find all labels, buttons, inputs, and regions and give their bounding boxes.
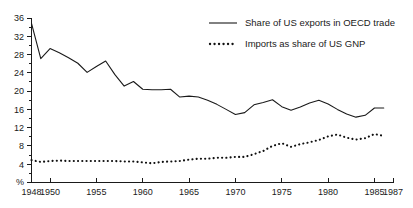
chart-plot: 4812162024283236 19481950195519601965197… (0, 0, 413, 208)
y-axis-unit-label: % (16, 177, 24, 187)
y-tick-label-12: 12 (14, 123, 24, 133)
y-axis: 4812162024283236 (14, 13, 32, 182)
y-tick-label-20: 20 (14, 86, 24, 96)
x-tick-label-1987: 1987 (383, 187, 403, 197)
y-tick-label-32: 32 (14, 32, 24, 42)
x-tick-label-1980: 1980 (318, 187, 338, 197)
x-tick-label-1970: 1970 (225, 187, 245, 197)
x-axis-ticks (32, 178, 394, 183)
x-axis: 1948195019551960196519701975198019851987 (21, 178, 403, 198)
x-axis-tick-labels: 1948195019551960196519701975198019851987 (21, 187, 403, 197)
x-tick-label-1950: 1950 (40, 187, 60, 197)
x-tick-label-1965: 1965 (179, 187, 199, 197)
legend-label-imports-share-gnp: Imports as share of US GNP (245, 38, 365, 49)
x-tick-label-1960: 1960 (133, 187, 153, 197)
x-tick-label-1948: 1948 (21, 187, 41, 197)
series-line-imports-share-gnp (32, 134, 384, 163)
y-axis-tick-labels: 4812162024283236 (14, 13, 24, 169)
y-tick-label-36: 36 (14, 13, 24, 23)
chart-legend: Share of US exports in OECD trade Import… (209, 17, 395, 49)
y-tick-label-28: 28 (14, 50, 24, 60)
x-tick-label-1985: 1985 (364, 187, 384, 197)
y-tick-label-4: 4 (19, 160, 24, 170)
y-tick-label-24: 24 (14, 68, 24, 78)
y-axis-ticks (27, 18, 32, 183)
y-tick-label-16: 16 (14, 105, 24, 115)
x-tick-label-1975: 1975 (272, 187, 292, 197)
legend-label-us-exports-oecd-share: Share of US exports in OECD trade (245, 17, 395, 28)
y-tick-label-8: 8 (19, 141, 24, 151)
chart-container: 4812162024283236 19481950195519601965197… (0, 0, 413, 208)
x-tick-label-1955: 1955 (86, 187, 106, 197)
